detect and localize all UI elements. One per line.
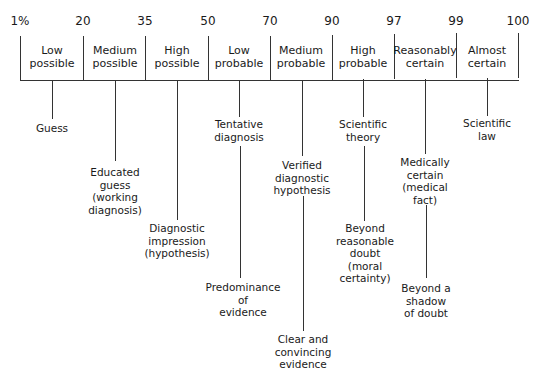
band-high-probable: Highprobable <box>339 44 388 70</box>
tick-label-1: 1% <box>10 14 29 28</box>
label-guess: Guess <box>36 122 68 135</box>
tick-line <box>208 36 209 81</box>
label-beyond-reasonable-doubt: Beyondreasonabledoubt(moralcertainty) <box>336 222 394 285</box>
label-educated-guess: Educatedguess(workingdiagnosis) <box>88 166 142 216</box>
band-low-possible: Lowpossible <box>29 44 74 70</box>
label-medically-certain: Medicallycertain(medicalfact) <box>400 156 449 206</box>
band-medium-possible: Mediumpossible <box>92 44 137 70</box>
connector-line <box>115 81 116 161</box>
tick-label-97: 97 <box>386 14 401 28</box>
label-predominance-of-evidence: Predominanceofevidence <box>206 281 281 319</box>
tick-label-70: 70 <box>262 14 277 28</box>
label-diagnostic-impression: Diagnosticimpression(hypothesis) <box>144 222 209 260</box>
tick-label-100: 100 <box>507 14 530 28</box>
tick-label-20: 20 <box>75 14 90 28</box>
tick-label-35: 35 <box>137 14 152 28</box>
scale-baseline <box>20 80 519 81</box>
label-tentative-diagnosis: Tentativediagnosis <box>214 118 264 143</box>
tick-line <box>83 36 84 81</box>
tick-label-99: 99 <box>448 14 463 28</box>
connector-line <box>239 81 240 117</box>
tick-label-90: 90 <box>324 14 339 28</box>
band-low-probable: Lowprobable <box>215 44 264 70</box>
label-clear-and-convincing: Clear andconvincingevidence <box>275 333 332 371</box>
tick-line <box>332 35 333 80</box>
connector-line <box>487 78 488 116</box>
connector-line <box>426 205 427 278</box>
band-high-possible: Highpossible <box>154 44 199 70</box>
tick-line <box>20 36 21 81</box>
tick-line <box>145 36 146 81</box>
connector-line <box>363 79 364 117</box>
connector-line <box>240 146 241 278</box>
tick-line <box>518 33 519 78</box>
label-verified-diagnostic-hypothesis: Verifieddiagnostichypothesis <box>273 159 330 197</box>
tick-line <box>270 36 271 81</box>
label-beyond-a-shadow-of-doubt: Beyond ashadowof doubt <box>401 282 450 320</box>
connector-line <box>364 146 365 221</box>
band-almost-certain: Almostcertain <box>468 44 506 70</box>
connector-line <box>303 196 304 331</box>
band-reasonably-certain: Reasonablycertain <box>393 44 456 70</box>
band-medium-probable: Mediumprobable <box>277 44 326 70</box>
tick-label-50: 50 <box>200 14 215 28</box>
connector-line <box>52 81 53 119</box>
connector-line <box>425 79 426 154</box>
connector-line <box>177 81 178 220</box>
label-scientific-law: Scientificlaw <box>463 117 511 142</box>
label-scientific-theory: Scientifictheory <box>339 118 387 143</box>
connector-line <box>302 80 303 156</box>
